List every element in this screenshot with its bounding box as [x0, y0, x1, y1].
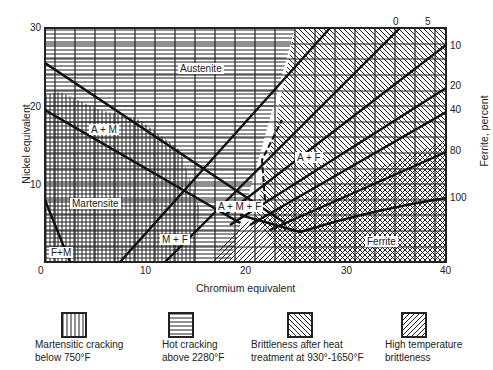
x-axis-title: Chromium equivalent: [196, 282, 295, 294]
region-m-f: M + F: [160, 234, 190, 245]
ferrite-label-100: 100: [450, 192, 467, 203]
legend-sigma-brittleness: Brittleness after heat treatment at 930°…: [251, 312, 364, 364]
region-austenite: Austenite: [178, 63, 224, 74]
region-martensite: Martensite: [70, 198, 121, 209]
ferrite-label-40: 40: [450, 104, 461, 115]
forward-diagonal-hatch-swatch: [401, 312, 427, 338]
ferrite-label-20: 20: [450, 80, 461, 91]
back-diagonal-hatch-swatch: [287, 312, 313, 338]
x-tick-10: 10: [140, 265, 151, 276]
region-a-m-f: A + M + F: [216, 201, 263, 212]
y-tick-30: 30: [30, 22, 41, 33]
region-f-m: F+M: [49, 247, 73, 258]
ferrite-label-10: 10: [450, 40, 461, 51]
y2-axis-title: Ferrite, percent: [478, 95, 490, 166]
x-tick-0: 0: [38, 265, 44, 276]
region-ferrite: Ferrite: [365, 236, 398, 247]
legend-hot-cracking: Hot cracking above 2280°F: [162, 312, 224, 364]
horizontal-hatch-swatch: [168, 312, 194, 338]
y-axis-title: Nickel equivalent: [20, 104, 32, 183]
region-a-f: A + F: [295, 152, 323, 163]
x-tick-40: 40: [440, 265, 451, 276]
region-a-m: A + M: [89, 124, 119, 135]
legend-high-temp-brittleness: High temperature brittleness: [385, 312, 462, 364]
vertical-hatch-swatch: [61, 312, 87, 338]
ferrite-label-80: 80: [450, 145, 461, 156]
legend-martensitic-cracking: Martensitic cracking below 750°F: [35, 312, 123, 364]
ferrite-label-5: 5: [425, 16, 431, 27]
ferrite-label-0: 0: [393, 16, 399, 27]
x-tick-30: 30: [341, 265, 352, 276]
x-tick-20: 20: [240, 265, 251, 276]
